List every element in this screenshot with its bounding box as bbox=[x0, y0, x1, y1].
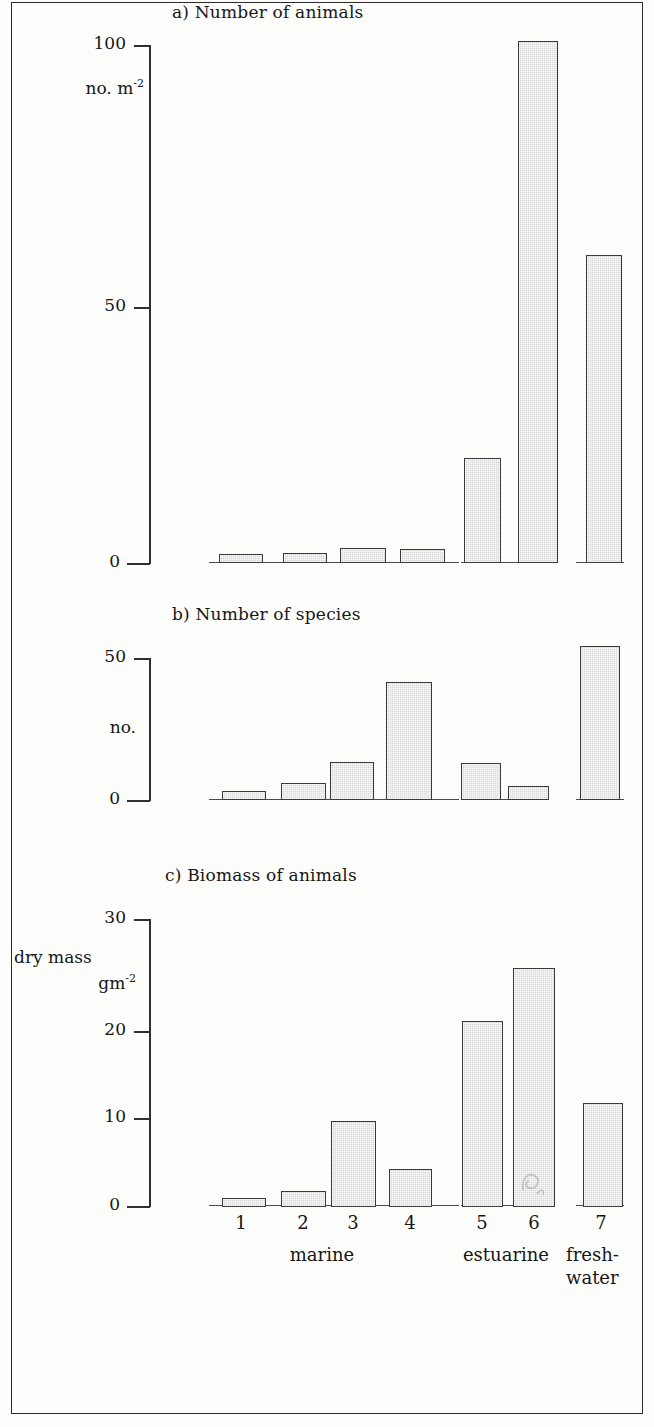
x-tick-label-2: 2 bbox=[278, 1212, 328, 1233]
panel-b-bar-site-2 bbox=[281, 783, 326, 800]
panel-b-tick-0 bbox=[127, 800, 150, 802]
panel-c-y-axis-label-line1: dry mass bbox=[14, 947, 136, 967]
panel-c-tick-0 bbox=[127, 1206, 150, 1208]
panel-a-title: a) Number of animals bbox=[172, 2, 363, 22]
panel-b-y-axis-label: no. bbox=[46, 717, 136, 737]
panel-a-y-axis-label-exponent: -2 bbox=[133, 77, 144, 90]
panel-c-bar-site-5 bbox=[462, 1021, 503, 1207]
x-tick-label-6: 6 bbox=[509, 1212, 559, 1233]
panel-c-tick-label-10: 10 bbox=[46, 1106, 126, 1126]
x-group-label-marine: marine bbox=[262, 1245, 382, 1265]
x-tick-label-7: 7 bbox=[576, 1212, 626, 1233]
panel-c-y-axis bbox=[149, 919, 151, 1207]
panel-c-bar-site-3 bbox=[331, 1121, 376, 1207]
panel-c-bar-site-1 bbox=[222, 1198, 266, 1207]
panel-a-tick-label-0: 0 bbox=[46, 551, 120, 571]
panel-a-y-axis-label: no. m-2 bbox=[36, 77, 144, 98]
panel-a-y-axis-label-text: no. m bbox=[85, 78, 133, 98]
panel-a-bar-site-7 bbox=[586, 255, 622, 563]
panel-a-bar-site-5 bbox=[464, 458, 501, 563]
x-tick-label-4: 4 bbox=[385, 1212, 435, 1233]
panel-b-title: b) Number of species bbox=[172, 604, 361, 624]
panel-a-y-axis bbox=[149, 45, 151, 564]
x-group-label-estuarine: estuarine bbox=[443, 1245, 569, 1265]
x-group-label-freshwater-line1: fresh- bbox=[566, 1245, 640, 1265]
panel-a-bar-site-3 bbox=[340, 548, 386, 563]
panel-b-bar-site-6 bbox=[508, 786, 549, 800]
x-tick-label-1: 1 bbox=[216, 1212, 266, 1233]
panel-c-tick-label-30: 30 bbox=[46, 907, 126, 927]
panel-a-tick-50 bbox=[134, 307, 150, 309]
panel-c-tick-label-20: 20 bbox=[46, 1019, 126, 1039]
panel-b-y-axis bbox=[149, 658, 151, 801]
panel-c-bar-site-4 bbox=[389, 1169, 432, 1207]
panel-c-tick-30 bbox=[134, 919, 150, 921]
panel-c-y-axis-label-units: gm bbox=[98, 973, 125, 993]
panel-c-title: c) Biomass of animals bbox=[165, 865, 357, 885]
panel-c-y-axis-label-exponent: -2 bbox=[125, 972, 136, 985]
panel-b-bar-site-3 bbox=[330, 762, 374, 800]
panel-b-bar-site-4 bbox=[386, 682, 432, 800]
panel-c-bar-site-6 bbox=[513, 968, 555, 1207]
panel-b-tick-label-0: 0 bbox=[46, 788, 120, 808]
panel-a-bar-site-4 bbox=[400, 549, 445, 563]
panel-a-tick-0 bbox=[127, 563, 150, 565]
panel-b-bar-site-1 bbox=[222, 791, 266, 800]
panel-a-bar-site-2 bbox=[283, 553, 327, 563]
panel-b-bar-site-7 bbox=[580, 646, 620, 800]
figure-plate: a) Number of animals 100 50 0 no. m-2 b)… bbox=[0, 0, 654, 1427]
panel-b-bar-site-5 bbox=[461, 763, 501, 800]
panel-c-tick-20 bbox=[134, 1031, 150, 1033]
panel-b-tick-50 bbox=[134, 658, 150, 660]
panel-c-tick-label-0: 0 bbox=[46, 1194, 120, 1214]
panel-c-y-axis-label-line2: gm-2 bbox=[14, 972, 136, 993]
x-tick-label-5: 5 bbox=[457, 1212, 507, 1233]
x-tick-label-3: 3 bbox=[328, 1212, 378, 1233]
panel-c-bar-site-2 bbox=[281, 1191, 326, 1207]
panel-a-bar-site-1 bbox=[219, 554, 263, 563]
panel-a-bar-site-6 bbox=[518, 41, 558, 563]
x-group-label-freshwater-line2: water bbox=[566, 1268, 640, 1288]
panel-c-tick-10 bbox=[134, 1118, 150, 1120]
panel-a-tick-label-100: 100 bbox=[46, 33, 126, 53]
panel-c-bar-site-7 bbox=[583, 1103, 623, 1207]
panel-a-tick-100 bbox=[134, 45, 150, 47]
panel-a-tick-label-50: 50 bbox=[46, 295, 126, 315]
panel-b-tick-label-50: 50 bbox=[46, 646, 126, 666]
